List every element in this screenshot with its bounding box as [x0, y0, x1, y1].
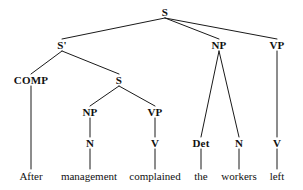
node-n-subject: N — [235, 138, 243, 149]
node-np-embedded: NP — [82, 107, 97, 118]
tree-edge-root-s-to-vp — [165, 18, 277, 39]
tree-edge-s-bar-to-comp — [31, 51, 62, 74]
node-s-embedded: S — [116, 75, 122, 86]
node-np-subject: NP — [211, 40, 226, 51]
node-root-s: S — [162, 7, 168, 18]
tree-edge-s-bar-to-s-embedded — [62, 51, 119, 74]
tree-edge-layer — [0, 0, 303, 190]
word-workers: workers — [221, 171, 256, 182]
syntax-tree-diagram: S S' NP VP COMP S NP VP N V Det N V Afte… — [0, 0, 303, 190]
node-vp-main: VP — [269, 40, 284, 51]
word-left: left — [270, 171, 285, 182]
node-vp-embedded: VP — [147, 107, 162, 118]
word-management: management — [61, 171, 117, 182]
node-det-subject: Det — [192, 138, 209, 149]
tree-edge-root-s-to-np — [165, 18, 219, 39]
word-complained: complained — [129, 171, 180, 182]
node-v-main: V — [273, 138, 281, 149]
tree-edge-s-embedded-to-vp — [119, 86, 155, 106]
tree-edge-np-subject-to-n — [219, 51, 239, 137]
node-comp: COMP — [14, 75, 48, 86]
node-n-embedded: N — [86, 138, 94, 149]
node-s-bar: S' — [57, 40, 67, 51]
word-after: After — [19, 171, 42, 182]
word-the: the — [194, 171, 207, 182]
tree-edge-np-subject-to-det — [201, 51, 219, 137]
node-v-embedded: V — [151, 138, 159, 149]
tree-edge-s-embedded-to-np — [90, 86, 119, 106]
tree-edge-root-s-to-s-bar — [62, 18, 165, 39]
